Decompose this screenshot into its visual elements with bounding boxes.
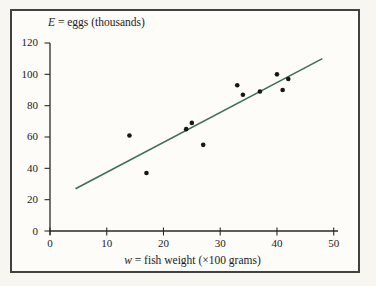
data-point: [241, 92, 246, 97]
data-point: [286, 77, 291, 82]
y-tick-label: 100: [22, 68, 39, 80]
data-point: [144, 171, 149, 176]
x-tick-label: 30: [215, 237, 227, 249]
y-tick-label: 0: [33, 225, 39, 237]
y-axis-title-text: = eggs (thousands): [55, 16, 145, 28]
y-tick-label: 20: [27, 193, 39, 205]
y-axis-variable: E: [48, 16, 55, 28]
trend-line: [76, 59, 323, 189]
data-point: [280, 88, 285, 93]
data-point: [127, 133, 132, 138]
x-tick-label: 20: [158, 237, 170, 249]
scatter-plot: 02040608010012001020304050: [0, 0, 376, 286]
y-tick-label: 120: [22, 36, 39, 48]
y-axis-title: E = eggs (thousands): [48, 16, 145, 29]
data-point: [258, 89, 263, 94]
data-point: [235, 83, 240, 88]
x-axis-variable: w: [124, 254, 132, 266]
x-tick-label: 10: [101, 237, 113, 249]
data-point: [275, 72, 280, 77]
y-tick-label: 40: [27, 162, 39, 174]
x-tick-label: 0: [47, 237, 53, 249]
data-point: [201, 143, 206, 148]
data-point: [190, 121, 195, 126]
y-tick-label: 80: [27, 99, 39, 111]
x-axis-title-text: = fish weight (×100 grams): [132, 254, 261, 266]
x-tick-label: 50: [328, 237, 340, 249]
x-tick-label: 40: [271, 237, 283, 249]
y-tick-label: 60: [27, 130, 39, 142]
data-point: [184, 127, 189, 132]
figure: 02040608010012001020304050 E = eggs (tho…: [0, 0, 376, 286]
x-axis-title: w = fish weight (×100 grams): [50, 254, 335, 267]
